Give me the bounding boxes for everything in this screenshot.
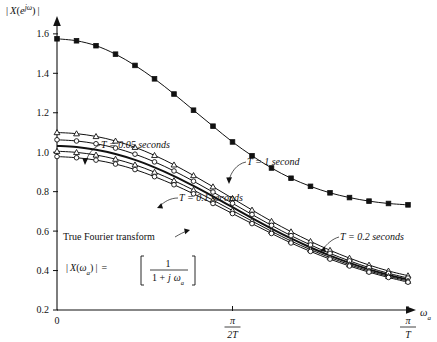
data-point-marker bbox=[152, 77, 157, 82]
markers-group bbox=[54, 36, 411, 284]
formula-bar-r: | bbox=[95, 262, 97, 273]
formula-bar-l: | bbox=[66, 262, 68, 273]
x-axis-title: ωa bbox=[420, 307, 431, 322]
data-point-marker bbox=[191, 179, 196, 184]
data-point-marker bbox=[249, 207, 255, 212]
data-point-marker bbox=[152, 174, 157, 179]
data-point-marker bbox=[328, 257, 333, 262]
annot-true-ft-arrowhead bbox=[184, 229, 190, 235]
annot-t02-text: T = 0.2 seconds bbox=[340, 231, 404, 242]
y-tick-label: 1.4 bbox=[37, 68, 50, 79]
data-point-marker bbox=[230, 140, 235, 145]
data-point-marker bbox=[191, 108, 196, 113]
data-point-marker bbox=[386, 201, 391, 206]
data-point-marker bbox=[308, 184, 313, 189]
data-point-marker bbox=[94, 158, 99, 163]
svg-text:T = 0.2 seconds: T = 0.2 seconds bbox=[340, 231, 404, 242]
data-point-marker bbox=[172, 182, 177, 187]
data-point-marker bbox=[406, 280, 411, 285]
annotation-true-fourier: True Fourier transform bbox=[63, 229, 190, 242]
xlabel-sub: a bbox=[427, 314, 431, 322]
annot-t005-arrowhead bbox=[82, 158, 88, 165]
formula-den-one: 1 + bbox=[152, 272, 166, 283]
formula-block: |X(ωa)|= 1 1 +jωa bbox=[66, 256, 195, 286]
data-point-marker bbox=[328, 191, 333, 196]
annot-true-ft-text: True Fourier transform bbox=[63, 231, 155, 242]
chart-svg: 0.20.40.60.81.01.21.41.6 0π2TπT |X(ejω)|… bbox=[0, 0, 437, 342]
formula-numerator: 1 bbox=[166, 258, 171, 269]
y-axis-title: |X(ejω)| bbox=[6, 3, 40, 18]
y-tick-label: 1.6 bbox=[37, 28, 50, 39]
ylabel-bar-right: | bbox=[38, 5, 40, 16]
formula-close: ) bbox=[90, 262, 93, 274]
data-point-marker bbox=[94, 43, 99, 48]
xlabel-omega: ω bbox=[420, 307, 427, 318]
data-point-marker bbox=[269, 223, 274, 228]
curve-0 bbox=[57, 39, 408, 205]
data-point-marker bbox=[211, 124, 216, 129]
formula-eq: = bbox=[101, 262, 107, 273]
svg-text:|X(ωa)|=: |X(ωa)|= bbox=[66, 262, 107, 277]
ylabel-bar-left: | bbox=[6, 5, 8, 16]
data-point-marker bbox=[250, 212, 255, 217]
y-tick-label: 0.8 bbox=[37, 186, 50, 197]
data-point-marker bbox=[347, 195, 352, 200]
svg-text:ωa: ωa bbox=[420, 307, 431, 322]
annot-t01-leader bbox=[160, 198, 178, 206]
annot-t1-leader bbox=[229, 162, 246, 180]
data-point-marker bbox=[152, 160, 157, 165]
ylabel-paren-close: ) bbox=[32, 5, 36, 17]
curves-group bbox=[57, 39, 408, 282]
data-point-marker bbox=[269, 231, 274, 236]
y-axis-arrowhead bbox=[53, 16, 61, 26]
data-point-marker bbox=[74, 139, 79, 144]
svg-text:1 +jωa: 1 +jωa bbox=[152, 272, 184, 286]
y-tick-label: 0.4 bbox=[37, 265, 50, 276]
data-point-marker bbox=[133, 152, 138, 157]
y-tick-label: 0.2 bbox=[37, 304, 50, 315]
figure-canvas: 0.20.40.60.81.01.21.41.6 0π2TπT |X(ejω)|… bbox=[0, 0, 437, 342]
data-point-marker bbox=[74, 155, 79, 160]
data-point-marker bbox=[113, 162, 118, 167]
svg-text:T = 1 second: T = 1 second bbox=[247, 156, 300, 167]
formula-bracket-left bbox=[141, 256, 144, 285]
y-tick-label: 0.6 bbox=[37, 226, 50, 237]
svg-text:|X(ejω)|: |X(ejω)| bbox=[6, 3, 40, 18]
data-point-marker bbox=[74, 38, 79, 43]
data-point-marker bbox=[289, 241, 294, 246]
data-point-marker bbox=[289, 176, 294, 181]
formula-omega: ω bbox=[79, 262, 86, 273]
x-tick-label-end-den: T bbox=[405, 329, 412, 340]
svg-text:T = 0.05 seconds: T = 0.05 seconds bbox=[101, 139, 170, 150]
data-point-marker bbox=[191, 173, 197, 178]
data-point-marker bbox=[133, 63, 138, 68]
data-point-marker bbox=[367, 199, 372, 204]
data-point-marker bbox=[94, 141, 99, 146]
svg-text:T = 0.1 seconds: T = 0.1 seconds bbox=[179, 192, 243, 203]
x-tick-label-mid-den: 2T bbox=[227, 329, 239, 340]
y-tick-group: 0.20.40.60.81.01.21.41.6 bbox=[37, 28, 59, 315]
data-point-marker bbox=[172, 92, 177, 97]
data-point-marker bbox=[250, 221, 255, 226]
annot-t02-leader bbox=[323, 237, 339, 249]
formula-den-sub: a bbox=[181, 279, 184, 286]
annot-t005-text: T = 0.05 seconds bbox=[101, 139, 170, 150]
x-tick-label-mid-num: π bbox=[230, 315, 236, 326]
data-point-marker bbox=[55, 137, 60, 142]
data-point-marker bbox=[113, 52, 118, 57]
x-tick-group: 0π2TπT bbox=[55, 306, 417, 340]
annot-t1-arrowhead bbox=[226, 177, 232, 184]
data-point-marker bbox=[347, 264, 352, 269]
data-point-marker bbox=[171, 162, 177, 167]
data-point-marker bbox=[55, 154, 60, 159]
annot-t1-text: T = 1 second bbox=[247, 156, 300, 167]
data-point-marker bbox=[406, 203, 411, 208]
formula-den-omega: ω bbox=[174, 272, 181, 283]
x-tick-label-end-num: π bbox=[405, 315, 411, 326]
data-point-marker bbox=[367, 270, 372, 275]
data-point-marker bbox=[210, 184, 216, 189]
annotation-t02: T = 0.2 seconds bbox=[320, 231, 404, 252]
data-point-marker bbox=[230, 211, 235, 216]
data-point-marker bbox=[133, 167, 138, 172]
data-point-marker bbox=[172, 169, 177, 174]
